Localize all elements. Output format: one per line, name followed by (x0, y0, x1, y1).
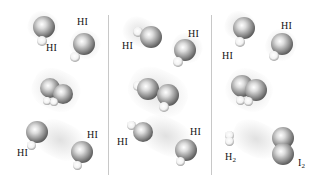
molecule-label-hi: HI (188, 28, 199, 39)
iodine-atom (71, 141, 93, 163)
hydrogen-atom (27, 141, 36, 150)
molecule-label-hi: HI (190, 126, 201, 137)
hydrogen-atom (225, 137, 234, 146)
label-h2-subscript: 2 (232, 156, 236, 164)
hydrogen-atom (73, 161, 82, 170)
iodine-atom (26, 121, 48, 143)
molecule-label-hi: HI (281, 20, 292, 31)
iodine-atom (140, 26, 162, 48)
iodine-atom (137, 78, 159, 100)
hydrogen-atom (70, 52, 80, 62)
molecule-label-hi: HI (87, 129, 98, 140)
iodine-atom (133, 122, 153, 142)
molecule-label-h2: H2 (225, 151, 236, 164)
hydrogen-atom (173, 57, 183, 67)
molecule-label-i2: I2 (298, 157, 305, 170)
iodine-atom (272, 143, 294, 165)
iodine-atom (233, 17, 255, 39)
hydrogen-atom (235, 37, 245, 47)
molecule-label-hi: HI (77, 16, 88, 27)
molecule-label-hi: HI (122, 40, 133, 51)
molecule-label-hi: HI (222, 50, 233, 61)
hydrogen-atom (50, 98, 58, 106)
molecule-label-hi: HI (17, 147, 28, 158)
hydrogen-atom (244, 97, 253, 106)
hydrogen-atom (159, 102, 169, 112)
molecule-label-hi: HI (117, 136, 128, 147)
hydrogen-atom (176, 157, 185, 166)
molecule-label-hi: HI (46, 42, 57, 53)
column-divider-1 (108, 15, 109, 175)
label-i2-subscript: 2 (302, 162, 306, 170)
column-divider-2 (211, 15, 212, 175)
hydrogen-atom (269, 51, 279, 61)
iodine-atom (33, 16, 55, 38)
